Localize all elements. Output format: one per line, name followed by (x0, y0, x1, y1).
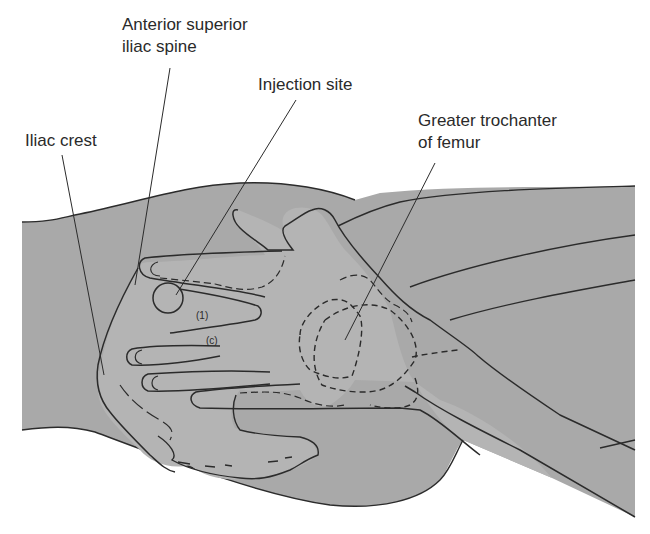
label-asis-line1: Anterior superior (122, 14, 248, 36)
label-greater-trochanter-line1: Greater trochanter (418, 110, 557, 132)
label-injection-site: Injection site (258, 74, 353, 96)
label-asis-line2: iliac spine (122, 36, 248, 58)
injection-site-circle (153, 283, 183, 313)
label-asis: Anterior superior iliac spine (122, 14, 248, 58)
label-iliac-crest: Iliac crest (25, 130, 97, 152)
finger-mark-middle: (c) (206, 330, 218, 352)
ventrogluteal-diagram: Anterior superior iliac spine Injection … (0, 0, 650, 534)
label-greater-trochanter: Greater trochanter of femur (418, 110, 557, 154)
finger-mark-index: (1) (196, 305, 208, 327)
label-greater-trochanter-line2: of femur (418, 132, 557, 154)
